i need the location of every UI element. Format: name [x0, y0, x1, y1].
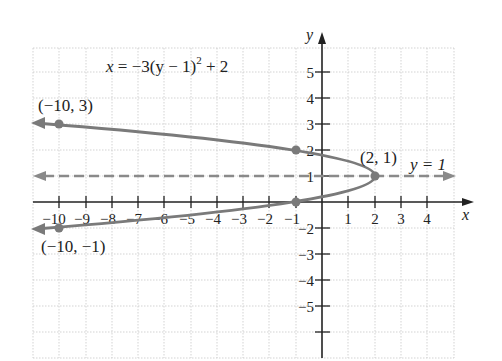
symmetry-label: y = 1 [408, 155, 446, 174]
equation-title: x = −3(y − 1)2 + 2 [105, 54, 228, 76]
x-tick-label: 1 [344, 211, 352, 227]
point-label-bottom: (−10, −1) [41, 237, 106, 256]
y-axis-label: y [304, 26, 314, 44]
x-tick-label: −3 [231, 211, 247, 227]
symmetry-left-arrow-icon [33, 171, 46, 181]
y-axis-arrow-icon [318, 32, 326, 44]
y-tick-label: −2 [298, 221, 314, 237]
x-tick-label: −2 [257, 211, 273, 227]
y-tick-label: −4 [298, 273, 314, 289]
y-tick-label: −3 [298, 247, 314, 263]
parabola-bottom-arrow-icon [31, 223, 45, 235]
y-tick-label: −5 [298, 299, 314, 315]
point-m10-m1 [55, 224, 64, 233]
equation-prefix: = −3(y − 1) [114, 57, 197, 76]
y-tick-label: 4 [307, 91, 315, 107]
point-label-top: (−10, 3) [38, 96, 93, 115]
equation-suffix: + 2 [202, 57, 229, 76]
x-axis-arrow-icon [462, 198, 474, 206]
y-tick-label: 5 [307, 65, 315, 81]
chart: −10 −9 −8 −7 −6 −5 −4 −3 −2 −1 1 2 3 4 5… [0, 0, 502, 361]
x-tick-label: 4 [423, 211, 431, 227]
y-tick-label: 3 [307, 117, 315, 133]
x-tick-label: 2 [371, 211, 379, 227]
x-axis-label: x [461, 206, 469, 223]
x-tick-label: 3 [397, 211, 405, 227]
x-tick-label: −10 [42, 211, 65, 227]
point-label-vertex: (2, 1) [360, 148, 397, 167]
point-m1-2 [292, 146, 301, 155]
point-vertex [371, 172, 380, 181]
point-m10-3 [55, 120, 64, 129]
point-m1-0 [292, 198, 301, 207]
